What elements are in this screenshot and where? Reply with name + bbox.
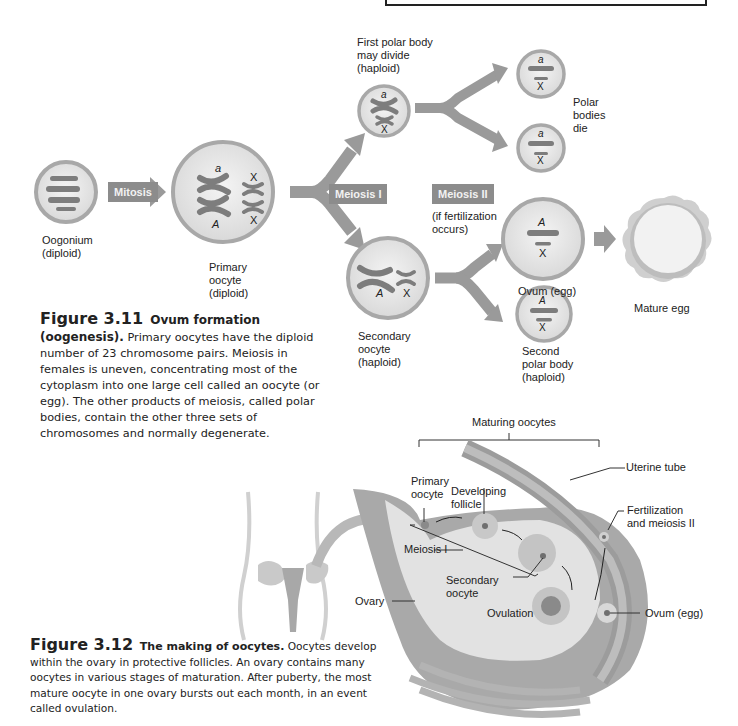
svg-text:X: X <box>537 81 544 92</box>
svg-text:X: X <box>250 171 258 183</box>
figure-3-12-number: Figure 3.12 <box>30 635 133 654</box>
meiosis-1-step-label: Meiosis I <box>329 184 387 204</box>
maturing-oocytes-label: Maturing oocytes <box>472 416 556 429</box>
svg-text:X: X <box>539 322 546 333</box>
ovary-label: Ovary <box>355 595 384 608</box>
ovum-ovary-label: Ovum (egg) <box>645 607 703 620</box>
svg-text:a: a <box>538 128 544 139</box>
ovum-cell <box>503 199 583 279</box>
oogonium-cell <box>36 162 96 222</box>
developing-follicle-label: Developing follicle <box>451 485 506 511</box>
secondary-oocyte-ovary-label: Secondary oocyte <box>446 574 499 600</box>
uterine-tube-label: Uterine tube <box>626 461 686 474</box>
svg-text:X: X <box>381 124 388 135</box>
svg-text:X: X <box>250 214 258 226</box>
fertilization-label: Fertilization and meiosis II <box>627 504 695 530</box>
uterus-icon <box>258 561 328 632</box>
figure-3-12-caption: Figure 3.12 The making of oocytes. Oocyt… <box>30 637 390 717</box>
figure-3-11-number: Figure 3.11 <box>40 309 143 328</box>
figure-3-11-caption: Figure 3.11 Ovum formation (oogenesis). … <box>40 311 330 442</box>
svg-text:X: X <box>539 247 547 259</box>
meiosis-2-step-label: Meiosis II <box>432 184 494 204</box>
figure-3-12-title: The making of oocytes. <box>140 640 285 653</box>
primary-oocyte-ovary-label: Primary oocyte <box>411 475 449 501</box>
polar-bodies-die-label: Polar bodies die <box>573 96 605 135</box>
first-polar-body-label: First polar body may divide (haploid) <box>357 36 433 75</box>
svg-text:A: A <box>375 287 383 299</box>
svg-text:a: a <box>381 89 387 100</box>
secondary-oocyte-label: Secondary oocyte (haploid) <box>358 330 411 369</box>
ovulation-label: Ovulation <box>487 607 533 620</box>
svg-text:a: a <box>215 162 221 174</box>
mature-egg-cell <box>622 195 711 282</box>
secondary-oocyte-cell <box>348 238 428 318</box>
body-silhouette-icon <box>240 492 326 640</box>
svg-text:X: X <box>537 155 544 166</box>
svg-text:X: X <box>403 287 411 299</box>
ovum-label: Ovum (egg) <box>518 285 576 298</box>
mitosis-step-label: Mitosis <box>108 182 158 202</box>
svg-text:a: a <box>538 54 544 65</box>
meiosis-2-note: (if fertilization occurs) <box>432 210 497 236</box>
svg-text:A: A <box>537 216 545 228</box>
figure-3-11-body: Primary oocytes have the diploid number … <box>40 331 320 440</box>
mature-egg-label: Mature egg <box>634 302 690 315</box>
primary-oocyte-cell <box>173 142 273 242</box>
primary-oocyte-label: Primary oocyte (diploid) <box>209 261 248 300</box>
svg-text:A: A <box>211 218 219 230</box>
meiosis-1-ovary-label: Meiosis I <box>404 543 447 556</box>
second-polar-body-label: Second polar body (haploid) <box>522 345 573 384</box>
oogonium-label: Oogonium (diploid) <box>42 234 93 260</box>
